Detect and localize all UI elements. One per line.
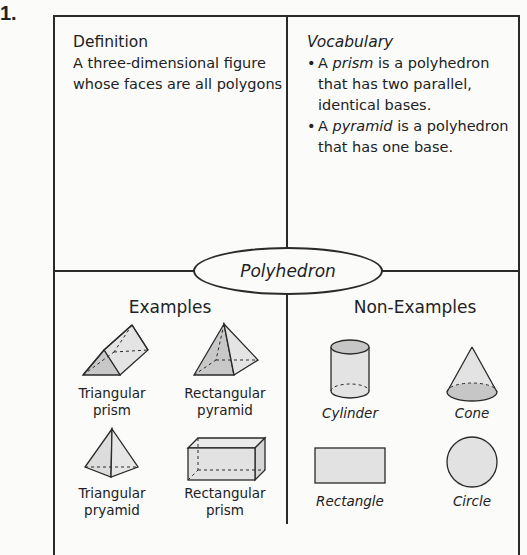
example-label-triangular-pyramid: Triangular pryamid (62, 485, 162, 519)
label-line: pyramid (175, 402, 275, 419)
vocab-prefix: A (318, 55, 333, 71)
non-example-label-circle: Circle (427, 493, 517, 510)
label-line: pryamid (62, 502, 162, 519)
definition-title: Definition (73, 32, 283, 53)
vocab-term-prism: prism (333, 55, 374, 71)
examples-title: Examples (120, 297, 220, 317)
definition-quadrant: Definition A three-dimensional figure wh… (73, 32, 283, 95)
vocab-term-pyramid: pyramid (333, 118, 393, 134)
circle-icon (444, 434, 500, 490)
label-line: Rectangular (175, 385, 275, 402)
rectangle-icon (313, 446, 387, 486)
label-line: Triangular (62, 385, 162, 402)
triangular-prism-icon (78, 322, 150, 384)
vocabulary-title: Vocabulary (307, 32, 517, 53)
rectangular-pyramid-icon (190, 322, 262, 384)
vocabulary-quadrant: Vocabulary A prism is a polyhedron that … (307, 32, 517, 158)
example-label-rectangular-pyramid: Rectangular pyramid (175, 385, 275, 419)
vocabulary-item: A prism is a polyhedron that has two par… (307, 53, 517, 116)
label-line: prism (62, 402, 162, 419)
label-line: Triangular (62, 485, 162, 502)
example-label-triangular-prism: Triangular prism (62, 385, 162, 419)
vocab-prefix: A (318, 118, 333, 134)
cylinder-icon (328, 338, 372, 402)
center-term: Polyhedron (240, 261, 336, 281)
non-example-label-cylinder: Cylinder (305, 405, 395, 422)
example-label-rectangular-prism: Rectangular prism (175, 485, 275, 519)
triangular-pyramid-icon (82, 426, 142, 482)
non-example-label-cone: Cone (427, 405, 517, 422)
cone-icon (444, 345, 500, 403)
rectangular-prism-icon (185, 434, 269, 484)
center-term-ellipse: Polyhedron (193, 247, 383, 295)
non-examples-title: Non-Examples (330, 297, 500, 317)
label-line: Rectangular (175, 485, 275, 502)
non-example-label-rectangle: Rectangle (300, 493, 400, 510)
vocabulary-item: A pyramid is a polyhedron that has one b… (307, 116, 517, 158)
definition-text: A three-dimensional figure whose faces a… (73, 55, 282, 92)
label-line: prism (175, 502, 275, 519)
problem-number: 1. (0, 2, 17, 25)
